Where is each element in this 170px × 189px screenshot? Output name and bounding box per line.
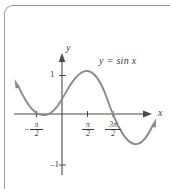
neg-half-pi-sign: – <box>25 125 29 133</box>
y-tick-negative-value: 1 <box>55 159 60 169</box>
y-axis-arrowhead-icon <box>59 53 66 62</box>
sine-graph-figure: y x y = sin x 1 –1 – π 2 π 2 3π 2 <box>0 0 170 189</box>
y-tick-label-one: 1 <box>50 70 55 79</box>
three-half-pi-denominator: 2 <box>105 129 121 138</box>
curve-left-arrowhead-icon <box>15 79 21 89</box>
x-axis-label: x <box>158 108 162 118</box>
graph-canvas <box>0 0 170 189</box>
y-axis-label: y <box>66 43 70 53</box>
x-tick-label-three-half-pi: 3π 2 <box>105 121 121 138</box>
half-pi-denominator: 2 <box>82 129 94 138</box>
x-tick-label-half-pi: π 2 <box>82 121 94 138</box>
neg-half-pi-numerator: π <box>30 121 43 129</box>
y-tick-label-negative-one: –1 <box>50 160 59 169</box>
half-pi-numerator: π <box>82 121 94 129</box>
neg-half-pi-denominator: 2 <box>30 129 43 138</box>
three-half-pi-numerator: 3π <box>105 121 121 129</box>
curve-right-arrowhead-icon <box>151 118 156 127</box>
x-tick-label-neg-half-pi: – π 2 <box>30 121 43 138</box>
equation-annotation: y = sin x <box>99 56 137 66</box>
x-axis-arrowhead-icon <box>143 111 152 118</box>
